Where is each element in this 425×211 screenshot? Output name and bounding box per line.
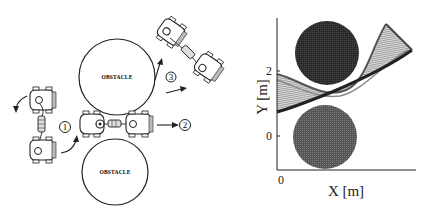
- vehicle-pair-end: [154, 14, 227, 85]
- upper-obstacle-disk: [295, 21, 359, 85]
- maneuver-diagram: OBSTACLE OBSTACLE: [0, 0, 262, 211]
- lower-obstacle-disk: [293, 105, 357, 169]
- trajectory-plot-svg: 2 0 0 X [m] Y [m]: [250, 0, 425, 211]
- step-marker-2: 2: [180, 120, 191, 131]
- x-tick-0: 0: [278, 173, 284, 187]
- maneuver-diagram-svg: OBSTACLE OBSTACLE: [0, 0, 262, 211]
- lower-obstacle-label: OBSTACLE: [99, 169, 130, 175]
- y-axis-title: Y [m]: [254, 79, 270, 115]
- x-axis-title: X [m]: [328, 183, 364, 199]
- curve-arrow-icon: [61, 141, 76, 153]
- arrow-up-icon: [155, 63, 160, 80]
- vehicle-icon: [126, 111, 153, 137]
- vehicle-icon: [30, 137, 56, 163]
- trajectory-plot: 2 0 0 X [m] Y [m]: [250, 0, 425, 211]
- vehicle-icon: [191, 49, 227, 85]
- svg-text:3: 3: [169, 72, 174, 82]
- lower-obstacle: OBSTACLE: [82, 139, 148, 205]
- arrow-right-icon: [166, 89, 182, 93]
- upper-obstacle-label: OBSTACLE: [101, 74, 132, 80]
- svg-text:2: 2: [183, 120, 188, 130]
- vehicle-pair-middle: [80, 111, 179, 137]
- y-tick-2: 2: [266, 64, 272, 78]
- upper-obstacle: OBSTACLE: [79, 39, 155, 115]
- step-marker-3: 3: [166, 72, 176, 82]
- step-marker-1: 1: [60, 122, 71, 133]
- svg-text:1: 1: [63, 122, 68, 132]
- vehicle-icon: [80, 111, 104, 137]
- y-tick-0: 0: [266, 129, 272, 143]
